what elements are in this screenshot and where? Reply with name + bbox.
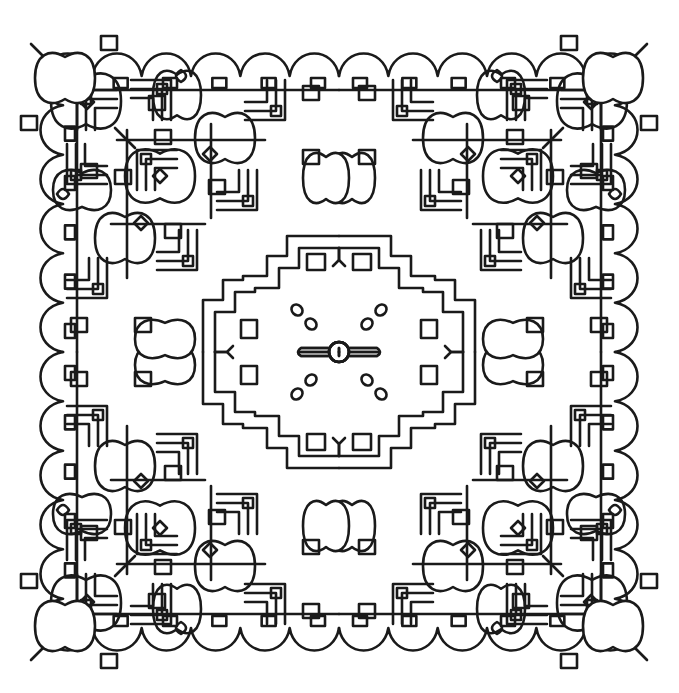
mandala-quadrant-2 (21, 342, 349, 668)
mandala-quadrant-1 (329, 342, 657, 668)
coloring-page-canvas (0, 0, 679, 693)
mandala-quadrant-3 (329, 36, 657, 362)
mandala-pattern (0, 0, 679, 693)
mandala-quadrant-4 (21, 36, 349, 362)
